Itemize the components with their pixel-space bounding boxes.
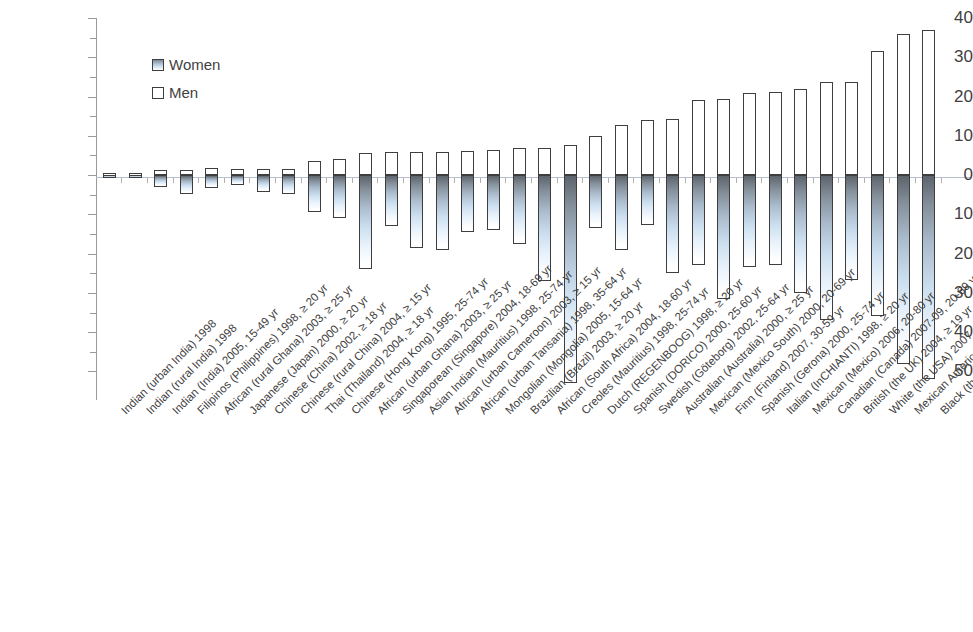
x-axis-category-label: African (urban Cameroon) 2003, ≥ 15 yr	[451, 408, 459, 416]
bar-women	[717, 175, 730, 299]
bar-women	[769, 175, 782, 265]
bar-men	[589, 136, 602, 175]
bar-men	[769, 92, 782, 175]
y-axis-tick	[88, 18, 96, 19]
x-axis-category-label: Chinese (Hong Kong) 1995, 25-74 yr	[349, 408, 357, 416]
bar-men	[641, 120, 654, 175]
x-axis-category-label: Finn (Finland) 2007, 30-59 yr	[733, 408, 741, 416]
bar-women	[436, 175, 449, 250]
x-axis-category-label: Canadian (Canada) 2007-09, 20-69 yr	[835, 408, 843, 416]
y-axis-tick	[88, 214, 96, 215]
bar-women	[513, 175, 526, 244]
x-axis-category-label: Swedish (Göteborg) 2002, 25-64 yr	[656, 408, 664, 416]
x-axis-category-label: African (rural Ghana) 2003, ≥ 25 yr	[221, 408, 229, 416]
bar-men	[615, 125, 628, 175]
bar-men	[717, 99, 730, 175]
bar-men	[333, 159, 346, 175]
bar-women	[333, 175, 346, 218]
x-axis-category-label: Mexican American (the USA) 2007, ≥ 20 yr	[912, 408, 920, 416]
x-axis-category-label: Mexican (Mexico) 2006, 20-80 yr	[810, 408, 818, 416]
bar-women	[743, 175, 756, 267]
bar-men	[538, 148, 551, 175]
legend-label-women: Women	[169, 57, 220, 72]
legend-swatch-men-icon	[152, 87, 164, 99]
legend-item-women[interactable]: Women	[152, 57, 220, 72]
bar-women	[231, 175, 244, 185]
bar-men	[897, 34, 910, 175]
x-axis-category-label: Asian Indian (Mauritius) 1998, 25-74 yr	[426, 408, 434, 416]
x-axis-category-label: Mexican (Mexico South) 2000, 20-69 yr	[707, 408, 715, 416]
x-axis-category-label: Spanish (Gerona) 2000, 25-74 yr	[759, 408, 767, 416]
bar-women	[410, 175, 423, 248]
bar-men	[845, 82, 858, 175]
bar-women	[154, 175, 167, 187]
x-axis-category-label: Singaporean (Singapore) 2004, 18-69 yr	[400, 408, 408, 416]
x-axis-category-label: African (urban Tansania) 1998, 35-64 yr	[477, 408, 485, 416]
y-axis-tick	[88, 254, 96, 255]
x-axis-category-label: Creoles (Mauritius) 1998, 25-74 yr	[579, 408, 587, 416]
y-axis-tick	[88, 293, 96, 294]
y-axis-tick	[88, 97, 96, 98]
x-axis-category-label: Chinese (China) 2002, ≥ 18 yr	[272, 408, 280, 416]
bar-women	[666, 175, 679, 273]
bar-men	[385, 152, 398, 176]
bar-women	[615, 175, 628, 250]
bar-men	[871, 51, 884, 175]
bar-men	[794, 89, 807, 175]
bar-women	[641, 175, 654, 224]
y-axis-tick	[88, 332, 96, 333]
bar-men	[487, 150, 500, 175]
y-axis-tick	[88, 175, 96, 176]
plot-area	[96, 18, 973, 400]
x-axis-category-label: African (South Africa) 2004, 18-60 yr	[554, 408, 562, 416]
bar-men	[308, 161, 321, 175]
x-axis-category-label: Indian (India) 2005, 15-49 yr	[170, 408, 178, 416]
bar-women	[103, 175, 116, 178]
x-axis-category-label: Japanese (Japan) 2000, ≥ 20 yr	[247, 408, 255, 416]
legend-item-men[interactable]: Men	[152, 85, 220, 100]
y-axis-tick	[88, 136, 96, 137]
bar-men	[461, 151, 474, 175]
bar-men	[564, 145, 577, 175]
x-axis-category-label: British (the UK) 2004, ≥ 19 yr	[861, 408, 869, 416]
x-axis-category-label: Indian (rural India) 1998	[144, 408, 152, 416]
x-axis-category-label: Filipinos (Philippines) 1998, ≥ 20 yr	[195, 408, 203, 416]
legend-label-men: Men	[169, 85, 198, 100]
bar-women	[692, 175, 705, 265]
chart-container: 4030201001020304050 Women Men Indian (ur…	[0, 0, 973, 632]
legend-swatch-women-icon	[152, 59, 164, 71]
bar-men	[743, 93, 756, 175]
x-axis-category-label: Spanish (DORICO) 2000, 25-60 yr	[631, 408, 639, 416]
x-axis-category-label: Thai (Thailand) 2004, ≥ 18 yr	[323, 408, 331, 416]
bar-women	[461, 175, 474, 232]
bar-women	[205, 175, 218, 188]
bar-women	[794, 175, 807, 293]
bar-men	[436, 152, 449, 176]
x-axis-category-label: Indian (urban India) 1998	[119, 408, 127, 416]
bar-men	[359, 153, 372, 175]
bar-women	[282, 175, 295, 193]
x-axis-category-label: Mongolian (Mongolia) 2005, 15-64 yr	[503, 408, 511, 416]
x-axis-category-label: Australian (Australia) 2000, ≥ 25 yr	[682, 408, 690, 416]
bar-men	[666, 119, 679, 175]
y-axis-tick	[88, 57, 96, 58]
bar-men	[205, 168, 218, 175]
x-axis-category-label: White (the USA) 2007, ≥ 20 yr	[887, 408, 895, 416]
x-axis-category-label: Dutch (REGENBOOG) 1998, ≥ 20 yr	[605, 408, 613, 416]
x-axis-category-label: Chinese (rural China) 2004, ≥ 15 yr	[298, 408, 306, 416]
y-axis-tick	[88, 371, 96, 372]
bar-women	[359, 175, 372, 269]
x-axis-category-label: African (urban Ghana) 2003, ≥ 25 yr	[375, 408, 383, 416]
x-axis-category-label: Brazilian (Brazil) 2003, ≥ 20 yr	[528, 408, 536, 416]
bar-women	[129, 175, 142, 178]
bar-men	[820, 82, 833, 175]
bar-women	[487, 175, 500, 230]
bar-women	[180, 175, 193, 194]
chart-legend: Women Men	[152, 57, 220, 113]
bar-women	[257, 175, 270, 192]
x-axis-category-labels: Indian (urban India) 1998Indian (rural I…	[0, 400, 973, 632]
bar-men	[922, 30, 935, 175]
bar-women	[308, 175, 321, 212]
bar-men	[692, 100, 705, 175]
bar-men	[513, 148, 526, 175]
